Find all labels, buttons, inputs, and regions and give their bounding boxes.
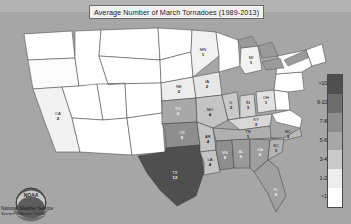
legend-band-label: <1 (305, 187, 327, 206)
figure-title: Average Number of March Tornadoes (1989-… (89, 5, 264, 19)
state-tx[interactable] (138, 145, 204, 206)
state-wa[interactable] (24, 31, 75, 60)
state-code-label: GA (257, 147, 263, 152)
state-code-label: LA (207, 157, 212, 162)
legend-band-label: 5-6 (305, 131, 327, 150)
state-value-label: 12 (173, 175, 178, 180)
state-code-label: KY (253, 117, 259, 122)
legend-band[interactable] (328, 188, 342, 207)
legend-band[interactable] (328, 169, 342, 188)
state-code-label: CA (55, 111, 61, 116)
state-code-label: MO (207, 107, 214, 112)
state-code-label: TX (172, 170, 178, 175)
legend-band-label: 3-4 (305, 149, 327, 168)
state-az[interactable] (72, 118, 132, 155)
legend-band[interactable] (328, 132, 342, 151)
legend-band[interactable] (328, 150, 342, 169)
state-nm[interactable] (127, 113, 165, 155)
legend-band-label: 7-8 (305, 112, 327, 131)
noaa-logo: NOAA (3, 186, 75, 222)
state-code-label: TN (245, 129, 251, 134)
state-wv[interactable] (274, 90, 290, 110)
figure-title-text: Average Number of March Tornadoes (1989-… (94, 8, 259, 17)
legend-labels: >109-107-85-63-41-2<1 (305, 74, 327, 206)
state-code-label: MI (249, 55, 254, 60)
state-va[interactable] (272, 110, 302, 128)
state-ks[interactable] (162, 98, 197, 124)
state-wi[interactable] (216, 32, 240, 72)
agency-attribution: National Weather Service Storm Predictio… (1, 206, 77, 216)
agency-line-2: Storm Prediction Center (1, 211, 77, 216)
state-code-label: OK (179, 130, 185, 135)
state-code-label: IA (205, 79, 209, 84)
legend-band[interactable] (328, 75, 342, 94)
state-code-label: MN (200, 47, 207, 52)
state-code-label: IN (246, 100, 250, 105)
state-mn[interactable] (191, 30, 219, 77)
state-code-label: MS (222, 150, 228, 155)
legend-band-label: 9-10 (305, 93, 327, 112)
legend-band-label: >10 (305, 74, 327, 93)
state-code-label: FL (274, 187, 280, 192)
legend-band[interactable] (328, 113, 342, 132)
state-code-label: OH (263, 95, 269, 100)
legend-band[interactable] (328, 94, 342, 113)
state-code-label: NE (176, 84, 182, 89)
svg-text:NOAA: NOAA (24, 192, 39, 198)
legend-colorbar[interactable] (327, 74, 343, 208)
tornado-map-figure: CA2NE2KS6OK8TX12MN1IA2MO4AR4LA4IL3MI1IN3… (0, 0, 351, 224)
state-or[interactable] (28, 58, 79, 89)
state-code-label: NC (285, 129, 291, 134)
state-code-label: AL (238, 149, 244, 154)
legend-band-label: 1-2 (305, 168, 327, 187)
state-code-label: SC (273, 143, 279, 148)
state-code-label: KS (175, 106, 181, 111)
state-code-label: AR (205, 134, 211, 139)
state-pa[interactable] (274, 72, 304, 92)
state-wy[interactable] (99, 56, 161, 84)
state-mt[interactable] (99, 28, 160, 60)
state-fl[interactable] (254, 160, 286, 212)
